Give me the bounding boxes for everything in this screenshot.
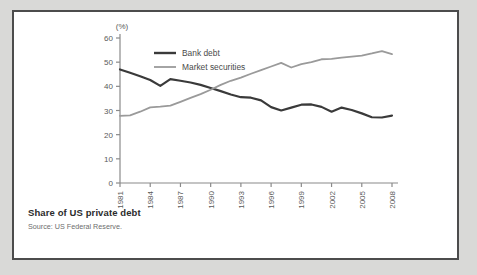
y-axis-tick-label: 20 [104, 131, 113, 140]
legend-label-bank-debt[interactable]: Bank debt [182, 48, 220, 58]
y-axis-tick-label: 0 [109, 179, 114, 188]
figure-caption-block: Share of US private debt Source: US Fede… [28, 208, 438, 231]
x-axis-tick-label: 1987 [176, 190, 185, 208]
y-axis-tick-label: 50 [104, 58, 113, 67]
figure-frame: 0102030405060(%)198119841987199019931996… [12, 10, 459, 260]
figure-caption-title: Share of US private debt [28, 208, 438, 218]
line-chart-svg: 0102030405060(%)198119841987199019931996… [14, 12, 457, 212]
x-axis-tick-label: 1990 [207, 190, 216, 208]
figure-source-note: Source: US Federal Reserve. [28, 223, 438, 231]
y-axis-tick-label: 40 [104, 82, 113, 91]
x-axis-tick-label: 1999 [297, 190, 306, 208]
chart-plot-area: 0102030405060(%)198119841987199019931996… [14, 12, 457, 212]
x-axis-tick-label: 1993 [237, 190, 246, 208]
legend-label-market-securities[interactable]: Market securities [182, 62, 245, 72]
y-axis-tick-label: 60 [104, 34, 113, 43]
x-axis-tick-label: 1996 [267, 190, 276, 208]
y-axis-tick-label: 10 [104, 155, 113, 164]
y-axis-tick-label: 30 [104, 107, 113, 116]
series-line-market-securities[interactable] [120, 51, 392, 116]
x-axis-tick-label: 2005 [358, 190, 367, 208]
x-axis-tick-label: 1984 [146, 190, 155, 208]
x-axis-tick-label: 2002 [328, 190, 337, 208]
series-line-bank-debt[interactable] [120, 69, 392, 117]
x-axis-tick-label: 2008 [388, 190, 397, 208]
y-axis-unit-label: (%) [116, 22, 129, 31]
